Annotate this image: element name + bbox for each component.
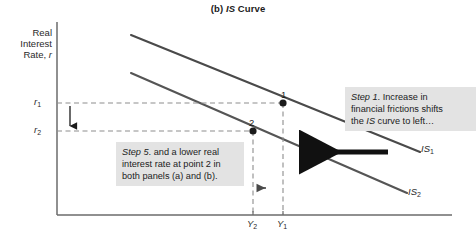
point-1-label: 1 bbox=[281, 89, 286, 100]
x-tick-label-y1: Y1 bbox=[277, 218, 287, 229]
equilibrium-point-1 bbox=[279, 99, 286, 106]
y-tick-label-r1: r1 bbox=[34, 96, 41, 107]
step-1-label: Step 1 bbox=[351, 92, 378, 102]
y-tick-label-r2: r2 bbox=[34, 124, 41, 135]
step-5-label: Step 5 bbox=[122, 147, 149, 157]
is1-curve-label: IS1 bbox=[421, 143, 434, 154]
equilibrium-point-2 bbox=[249, 127, 256, 134]
step-1-italic-is: IS bbox=[366, 116, 375, 126]
is2-curve-label: IS2 bbox=[408, 186, 421, 197]
is-curve-diagram: (b) IS Curve Real Interest Rate, r bbox=[0, 0, 476, 244]
x-tick-label-y2: Y2 bbox=[247, 218, 257, 229]
point-2-label: 2 bbox=[249, 117, 254, 128]
step-1-callout: Step 1. Increase infinancial frictions s… bbox=[345, 87, 476, 131]
step-5-callout: Step 5. and a lower realinterest rate at… bbox=[116, 142, 244, 186]
